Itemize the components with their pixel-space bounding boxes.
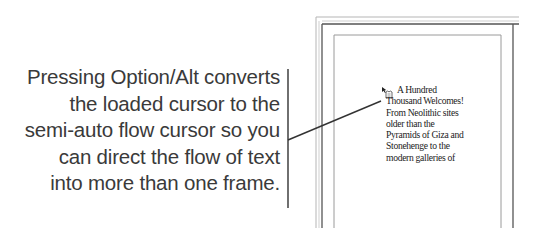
frame-body-text: A Hundred Thousand Welcomes! From Neolit… [386, 84, 476, 163]
frame-text-line: Stonehenge to the [386, 140, 476, 151]
callout-line: can direct the flow of text [20, 144, 280, 171]
frame-text-line: A Hundred [386, 84, 476, 95]
frame-text-line: Thousand Welcomes! [386, 95, 476, 106]
frame-text-line: modern galleries of [386, 152, 476, 163]
callout-line: semi-auto flow cursor so you [20, 117, 280, 144]
frame-text-line: From Neolithic sites [386, 107, 476, 118]
frame-text-line: Pyramids of Giza and [386, 129, 476, 140]
callout-text: Pressing Option/Alt converts the loaded … [20, 64, 280, 197]
callout-line: the loaded cursor to the [20, 91, 280, 118]
frame-text-line: older than the [386, 118, 476, 129]
callout-line: Pressing Option/Alt converts [20, 64, 280, 91]
callout-line: into more than one frame. [20, 170, 280, 197]
